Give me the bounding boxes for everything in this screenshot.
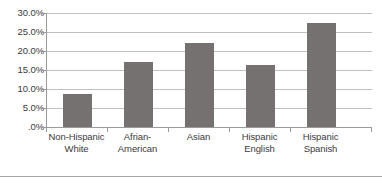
x-cat-label-line-1: Non-Hispanic bbox=[46, 131, 107, 143]
x-cat-label-asian: Asian bbox=[168, 131, 229, 143]
x-cat-label-line-2: English bbox=[229, 143, 290, 155]
x-cat-label-line-2: Spanish bbox=[290, 143, 351, 155]
x-cat-label-line-1: Afrian- bbox=[107, 131, 168, 143]
x-cat-label-line-1: Asian bbox=[168, 131, 229, 143]
x-cat-label-afrian-american: Afrian- American bbox=[107, 131, 168, 155]
x-axis-line bbox=[46, 127, 372, 128]
y-tick-label-20: 20.0% bbox=[0, 46, 44, 56]
x-cat-label-line-1: Hispanic bbox=[290, 131, 351, 143]
x-cat-label-line-2: American bbox=[107, 143, 168, 155]
y-tick-label-10: 10.0% bbox=[0, 84, 44, 94]
y-tick-label-30: 30.0% bbox=[0, 8, 44, 18]
x-cat-label-line-2: White bbox=[46, 143, 107, 155]
y-tick-label-0: .0% bbox=[0, 122, 44, 132]
x-cat-label-hispanic-spanish: Hispanic Spanish bbox=[290, 131, 351, 155]
bar-hispanic-english bbox=[246, 65, 275, 127]
bars-layer bbox=[46, 13, 372, 127]
figure-bottom-rule bbox=[0, 176, 382, 177]
x-cat-label-line-1: Hispanic bbox=[229, 131, 290, 143]
bar-chart: 30.0% 25.0% 20.0% 15.0% 10.0% 5.0% .0% bbox=[0, 0, 382, 186]
x-cat-label-hispanic-english: Hispanic English bbox=[229, 131, 290, 155]
y-tick-label-25: 25.0% bbox=[0, 27, 44, 37]
bar-hispanic-spanish bbox=[307, 23, 336, 128]
bar-afrian-american bbox=[124, 62, 153, 127]
y-tick-label-5: 5.0% bbox=[0, 103, 44, 113]
bar-asian bbox=[185, 43, 214, 127]
y-axis-label-group: 30.0% 25.0% 20.0% 15.0% 10.0% 5.0% .0% bbox=[0, 0, 44, 140]
x-cat-label-non-hispanic-white: Non-Hispanic White bbox=[46, 131, 107, 155]
bar-non-hispanic-white bbox=[63, 94, 92, 127]
y-tick-label-15: 15.0% bbox=[0, 65, 44, 75]
x-axis-label-group: Non-Hispanic White Afrian- American Asia… bbox=[46, 131, 372, 171]
